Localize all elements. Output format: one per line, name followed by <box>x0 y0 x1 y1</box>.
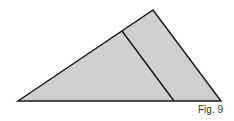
large-triangle <box>18 10 221 101</box>
figure-diagram <box>0 0 234 121</box>
figure-caption: Fig. 9 <box>198 104 223 115</box>
